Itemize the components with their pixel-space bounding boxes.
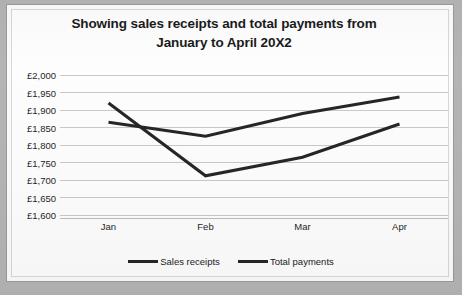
y-tick-label: £1,900 <box>12 105 56 116</box>
legend-line-swatch-icon <box>238 260 268 263</box>
y-tick-label: £1,950 <box>12 87 56 98</box>
y-tick-label: £1,600 <box>12 210 56 221</box>
x-tick-label-jan: Jan <box>101 221 116 232</box>
legend-line-swatch-icon <box>128 260 158 263</box>
y-tick-label: £1,850 <box>12 122 56 133</box>
legend-item[interactable]: Sales receipts <box>128 256 220 267</box>
y-tick-label: £1,800 <box>12 140 56 151</box>
x-tick-label-apr: Apr <box>392 221 407 232</box>
chart-screenshot: Showing sales receipts and total payment… <box>0 0 462 295</box>
legend-item[interactable]: Total payments <box>238 256 334 267</box>
y-axis-tick-labels: £2,000£1,950£1,900£1,850£1,800£1,750£1,7… <box>12 68 56 222</box>
chart-legend: Sales receiptsTotal payments <box>0 256 462 267</box>
x-tick-label-mar: Mar <box>294 221 310 232</box>
x-axis-tick-labels: JanFebMarApr <box>60 221 448 237</box>
data-series-lines <box>109 97 400 176</box>
x-tick-label-feb: Feb <box>197 221 213 232</box>
plot-area: £2,000£1,950£1,900£1,850£1,800£1,750£1,7… <box>0 0 462 295</box>
y-tick-label: £2,000 <box>12 70 56 81</box>
y-tick-label: £1,700 <box>12 175 56 186</box>
gridlines <box>60 75 448 215</box>
y-tick-label: £1,750 <box>12 157 56 168</box>
legend-label: Sales receipts <box>160 256 220 267</box>
y-tick-label: £1,650 <box>12 192 56 203</box>
chart-canvas <box>0 0 462 295</box>
legend-label: Total payments <box>270 256 334 267</box>
